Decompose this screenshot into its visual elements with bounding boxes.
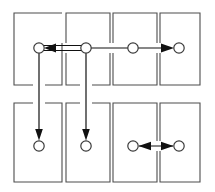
arrowhead-down — [82, 129, 90, 141]
diagram-canvas — [0, 0, 215, 192]
node-row2-col4[interactable] — [174, 141, 184, 151]
edge-node7-node8-bidirectional — [139, 142, 174, 150]
node-row1-col1[interactable] — [34, 43, 44, 53]
edge-node1-to-node5 — [35, 48, 43, 141]
node-row1-col4[interactable] — [174, 43, 184, 53]
arrowhead-right — [161, 142, 174, 150]
edge-node2-to-node6 — [82, 48, 90, 141]
node-row2-col3[interactable] — [128, 141, 138, 151]
grid-cells — [14, 13, 200, 182]
node-row2-col2[interactable] — [81, 141, 91, 151]
diagram-edges — [35, 44, 174, 151]
diagram-svg — [0, 0, 215, 192]
arrowhead-right — [161, 44, 174, 53]
node-row1-col3[interactable] — [128, 43, 138, 53]
node-row2-col1[interactable] — [34, 141, 44, 151]
arrowhead-down — [35, 129, 43, 141]
node-row1-col2[interactable] — [81, 43, 91, 53]
arrowhead-left — [139, 142, 152, 150]
diagram-nodes — [34, 43, 184, 151]
edge-node2-to-node1 — [43, 44, 86, 53]
